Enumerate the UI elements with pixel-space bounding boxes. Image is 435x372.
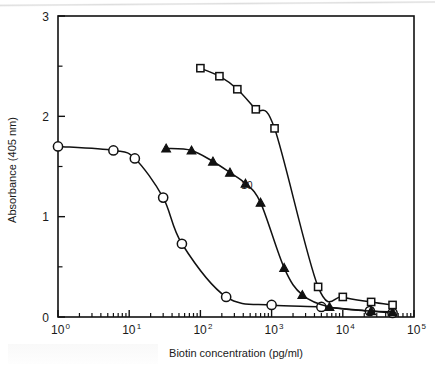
y-axis-title: Absorbance (405 nm) [6,117,18,223]
data-point-open-square [389,301,396,308]
x-tick-label: 101 [122,322,142,338]
x-tick-label: 100 [51,322,71,338]
x-tick-label-base: 10 [265,323,279,337]
series-open-circle-series [53,142,397,318]
y-tick-label: 2 [42,110,49,124]
annotation-layer: 10 [241,180,253,191]
data-point-open-square [339,293,346,300]
data-point-open-square [368,298,375,305]
y-axis-tick-labels: 0123 [42,10,49,325]
data-point-open-square [315,283,322,290]
absorbance-vs-biotin-plot: 0123 100101102103104105 10 Biotin concen… [0,0,435,372]
data-point-filled-triangle [226,168,235,176]
data-point-open-circle [130,154,139,163]
x-tick-label: 102 [193,322,213,338]
x-tick-label-exponent: 1 [137,322,142,331]
data-point-open-circle [159,193,168,202]
data-point-filled-triangle [256,198,265,206]
y-tick-label: 1 [42,210,49,224]
series-line [166,148,392,312]
x-tick-label-base: 10 [193,323,207,337]
data-series-layer [53,65,397,318]
series-line [58,146,393,313]
data-point-open-square [271,125,278,132]
data-point-open-circle [109,146,118,155]
data-point-open-circle [267,300,276,309]
series-filled-triangle-series [162,144,397,316]
series-line [200,68,392,305]
data-point-open-square [252,106,259,113]
x-tick-label: 105 [407,322,427,338]
series-open-square-series [197,65,396,309]
x-tick-label-exponent: 2 [208,322,213,331]
data-point-filled-triangle [280,263,289,271]
x-tick-label-exponent: 5 [422,322,427,331]
x-tick-label-exponent: 3 [279,322,284,331]
data-point-open-square [216,73,223,80]
x-axis-title: Biotin concentration (pg/ml) [169,347,303,359]
data-point-open-square [234,86,241,93]
data-point-open-circle [53,142,62,151]
data-point-open-square [197,65,204,72]
x-axis-tick-labels: 100101102103104105 [51,322,427,338]
y-tick-label: 3 [42,10,49,24]
curve-annotation-label: 10 [241,180,253,191]
data-point-open-circle [222,292,231,301]
x-tick-label-exponent: 4 [350,322,355,331]
figure-container: 0123 100101102103104105 10 Biotin concen… [0,0,435,372]
x-tick-label-exponent: 0 [66,322,71,331]
y-tick-label: 0 [42,311,49,325]
data-point-open-circle [177,239,186,248]
data-point-filled-triangle [209,157,218,165]
x-tick-label-base: 10 [51,323,65,337]
x-tick-label-base: 10 [407,323,421,337]
x-tick-label-base: 10 [336,323,350,337]
x-tick-label: 103 [265,322,285,338]
x-tick-label-base: 10 [122,323,136,337]
plot-frame [58,16,414,317]
x-tick-label: 104 [336,322,356,338]
